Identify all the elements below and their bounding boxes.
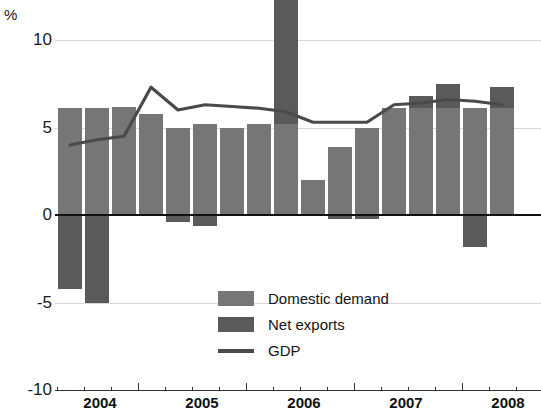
legend-label-gdp: GDP — [268, 342, 301, 359]
legend-item-domestic-demand: Domestic demand — [218, 290, 389, 307]
x-tick-major — [354, 383, 355, 391]
chart-container: % 10 5 0 -5 -10 Domestic demand Net expo… — [0, 0, 541, 411]
x-axis-baseline — [55, 390, 541, 391]
x-axis-label-2008: 2008 — [491, 394, 524, 411]
x-tick-minor — [489, 387, 490, 391]
x-tick-minor — [300, 387, 301, 391]
x-tick-minor — [435, 387, 436, 391]
x-tick-minor — [516, 387, 517, 391]
y-tick-minus10: -10 — [8, 380, 52, 400]
y-tick-minus5: -5 — [8, 293, 52, 313]
legend-line-gdp — [218, 349, 254, 353]
x-axis-label-2006: 2006 — [287, 394, 320, 411]
legend-swatch-net-exports — [218, 317, 254, 332]
x-tick-minor — [381, 387, 382, 391]
x-tick-minor — [57, 387, 58, 391]
y-tick-5: 5 — [8, 118, 52, 138]
plot-area: Domestic demand Net exports GDP — [55, 0, 541, 411]
y-tick-0: 0 — [8, 205, 52, 225]
x-axis-label-2004: 2004 — [83, 394, 116, 411]
x-tick-minor — [192, 387, 193, 391]
x-tick-minor — [111, 387, 112, 391]
x-tick-minor — [327, 387, 328, 391]
legend-label-domestic-demand: Domestic demand — [268, 290, 389, 307]
x-tick-major — [462, 383, 463, 391]
x-tick-minor — [84, 387, 85, 391]
x-tick-major — [138, 383, 139, 391]
x-axis-label-2007: 2007 — [389, 394, 422, 411]
legend-item-net-exports: Net exports — [218, 316, 345, 333]
x-tick-minor — [165, 387, 166, 391]
x-tick-minor — [408, 387, 409, 391]
y-axis-tick-labels: 10 5 0 -5 -10 — [0, 0, 52, 411]
x-axis-label-2005: 2005 — [185, 394, 218, 411]
x-tick-major — [246, 383, 247, 391]
x-tick-minor — [273, 387, 274, 391]
legend-swatch-domestic-demand — [218, 291, 254, 306]
x-tick-minor — [219, 387, 220, 391]
legend-item-gdp: GDP — [218, 342, 301, 359]
legend-label-net-exports: Net exports — [268, 316, 345, 333]
y-tick-10: 10 — [8, 30, 52, 50]
